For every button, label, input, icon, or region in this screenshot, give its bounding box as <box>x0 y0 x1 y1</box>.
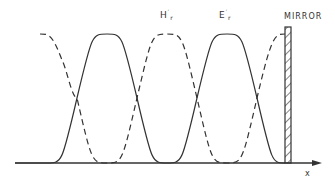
h-field-label: H′r <box>160 8 174 21</box>
e-field-curve <box>15 34 285 163</box>
mirror-label: MIRROR <box>284 12 322 21</box>
axis-arrow-icon <box>312 160 322 166</box>
e-field-label: E′r <box>219 8 232 21</box>
standing-wave-diagram: H′r E′r MIRROR x <box>0 0 335 183</box>
diagram-canvas <box>0 0 335 183</box>
x-axis-label: x <box>305 169 311 178</box>
mirror <box>285 27 291 163</box>
